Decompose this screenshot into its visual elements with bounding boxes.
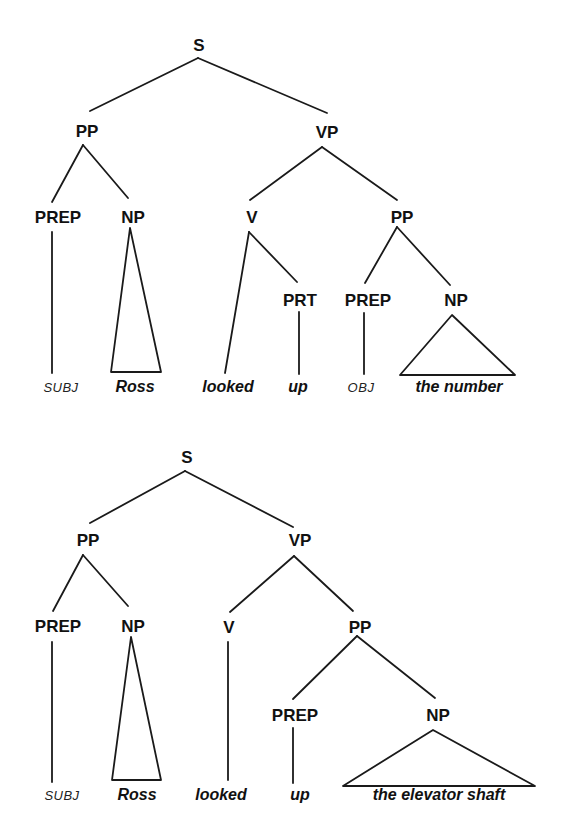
edge-pp-np2 <box>357 636 435 698</box>
leaf-subj: SUBJ <box>44 788 79 803</box>
edge-pp-prep <box>53 555 83 611</box>
edge-v-prt <box>249 232 297 282</box>
node-vp-pp: PP <box>349 618 372 637</box>
leaf-obj: OBJ <box>348 380 375 395</box>
node-s: S <box>181 448 192 467</box>
leaf-the-number: the number <box>415 378 503 395</box>
node-vp-pp: PP <box>391 208 414 227</box>
leaf-ross: Ross <box>115 378 154 395</box>
leaf-up: up <box>288 378 308 395</box>
leaf-looked: looked <box>202 378 255 395</box>
node-pp: PP <box>77 531 100 550</box>
edge-vp-pp <box>322 147 397 200</box>
syntax-trees-svg: S PP VP PREP NP V PP PRT PREP NP SUBJ Ro… <box>0 0 563 835</box>
leaf-the-elevator-shaft: the elevator shaft <box>373 786 506 803</box>
node-v: V <box>246 208 258 227</box>
edge-pp-prep2 <box>293 636 357 699</box>
leaf-subj: SUBJ <box>43 380 78 395</box>
edge-vp-v <box>250 147 322 200</box>
tree-1: S PP VP PREP NP V PP PRT PREP NP SUBJ Ro… <box>35 36 515 395</box>
node-v: V <box>223 618 235 637</box>
edge-s-vp <box>198 58 327 113</box>
leaf-ross: Ross <box>117 786 156 803</box>
edge-vp-pp <box>294 556 353 611</box>
edge-pp-np <box>83 145 128 198</box>
np-elevator-shaft-triangle <box>343 730 535 786</box>
node-prep: PREP <box>35 617 81 636</box>
np-ross-triangle <box>111 228 161 372</box>
leaf-looked: looked <box>195 786 248 803</box>
np-the-number-triangle <box>400 315 515 375</box>
node-pp: PP <box>76 122 99 141</box>
edge-vp-v <box>230 556 294 612</box>
edge-pp-np2 <box>397 227 450 285</box>
node-np: NP <box>121 208 145 227</box>
edge-v-looked <box>225 232 249 373</box>
np-ross-triangle <box>112 637 161 780</box>
node-prt: PRT <box>283 291 318 310</box>
node-prep: PREP <box>35 208 81 227</box>
edge-s-pp <box>90 471 185 523</box>
node-vp: VP <box>289 531 312 550</box>
leaf-up: up <box>290 786 310 803</box>
edge-s-pp <box>90 58 198 111</box>
node-s: S <box>193 36 204 55</box>
node-vp-pp-prep: PREP <box>272 706 318 725</box>
node-vp-pp-np: NP <box>426 706 450 725</box>
edge-pp-np <box>83 555 128 606</box>
node-vp-pp-np: NP <box>444 291 468 310</box>
tree-2: S PP VP PREP NP V PP PREP NP SUBJ Ross l… <box>35 448 535 803</box>
node-np: NP <box>121 617 145 636</box>
edge-pp-prep2 <box>365 227 397 283</box>
syntax-tree-figure: S PP VP PREP NP V PP PRT PREP NP SUBJ Ro… <box>0 0 563 835</box>
edge-pp-prep <box>52 145 83 202</box>
edge-s-vp <box>185 471 293 527</box>
node-vp: VP <box>316 123 339 142</box>
node-vp-pp-prep: PREP <box>345 291 391 310</box>
